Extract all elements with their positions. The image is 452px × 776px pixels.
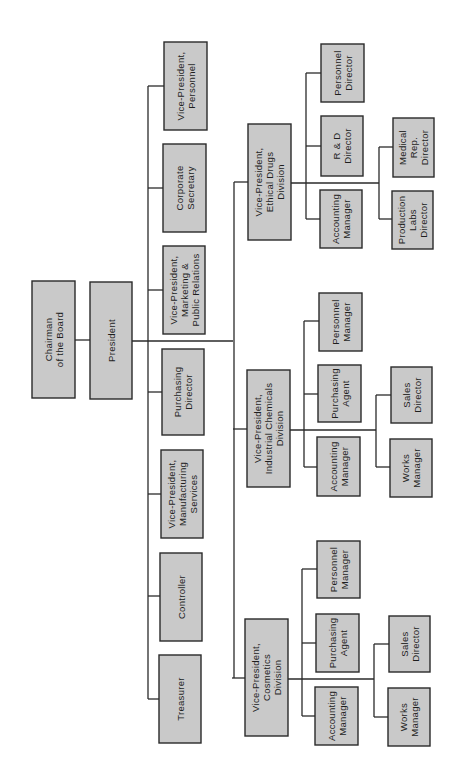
org-box-title-line: Division xyxy=(275,164,286,200)
org-box-vp-cosmetics: Vice-President,CosmeticsDivision xyxy=(245,619,288,736)
org-box-title-line: Controller xyxy=(176,575,187,619)
org-box-title-line: Sales xyxy=(401,382,412,407)
org-box-title-line: Manager xyxy=(339,550,350,590)
org-box-title-line: Cosmetics xyxy=(261,654,272,701)
org-box-title-line: Director xyxy=(410,626,421,662)
org-box-ed-rd-director: R & DDirector xyxy=(321,116,363,176)
org-box-title: AccountingManager xyxy=(328,441,350,491)
org-box-title-line: Director xyxy=(183,374,194,410)
org-box-title-line: Personnel xyxy=(330,299,341,344)
org-box-title-line: Director xyxy=(418,202,429,238)
org-box-title-line: Director xyxy=(342,128,353,164)
org-box-title-line: Purchasing xyxy=(329,368,340,419)
org-box-title: AccountingManager xyxy=(330,194,352,244)
org-box-controller: Controller xyxy=(160,553,202,641)
org-box-title-line: Personnel xyxy=(332,50,343,95)
org-box-title-line: Vice-President, xyxy=(168,256,179,325)
org-box-title-line: Personnel xyxy=(186,63,197,108)
org-box-title-line: Industrial Chemicals xyxy=(263,383,274,475)
org-box-title-line: Vice-President, xyxy=(252,394,263,463)
org-box-ic-purchasing-agent: PurchasingAgent xyxy=(318,365,361,422)
org-box-title: SalesDirector xyxy=(401,377,423,413)
org-box-title-line: Rep. xyxy=(408,137,419,158)
org-boxes: Chairmanof the BoardPresidentVice-Presid… xyxy=(32,42,434,746)
org-box-title: PersonnelDirector xyxy=(332,50,354,95)
org-box-title: PersonnelManager xyxy=(330,299,352,344)
org-box-title: Vice-President,Marketing &Public Relatio… xyxy=(168,254,201,327)
org-box-title-line: Chairman xyxy=(43,318,54,362)
org-box-title-line: Marketing & xyxy=(179,263,190,317)
org-chart: Chairmanof the BoardPresidentVice-Presid… xyxy=(0,0,452,776)
org-box-vp-marketing: Vice-President,Marketing &Public Relatio… xyxy=(163,246,205,334)
org-box-title: President xyxy=(106,319,117,362)
org-box-title-line: Purchasing xyxy=(172,367,183,418)
org-box-title-line: Vice-President, xyxy=(250,643,261,712)
org-box-ic-accounting-manager: AccountingManager xyxy=(317,437,360,496)
org-box-co-works-manager: WorksManager xyxy=(388,688,430,746)
org-box-title: AccountingManager xyxy=(326,691,348,741)
org-box-title-line: Agent xyxy=(340,380,351,406)
org-box-ed-medical-rep-director: MedicalRep.Director xyxy=(393,118,434,177)
org-box-title-line: Division xyxy=(272,660,283,696)
org-box-title: WorksManager xyxy=(400,448,422,488)
org-box-title: CorporateSecretary xyxy=(174,166,196,211)
org-box-title-line: Manager xyxy=(339,447,350,487)
org-box-title-line: Manager xyxy=(337,696,348,736)
org-box-title-line: Accounting xyxy=(328,441,339,491)
org-box-title-line: Agent xyxy=(338,630,349,656)
org-box-treasurer: Treasurer xyxy=(159,655,201,743)
org-box-title-line: Sales xyxy=(399,631,410,656)
org-box-title-line: Manager xyxy=(341,199,352,239)
org-box-title: Chairmanof the Board xyxy=(43,312,65,367)
org-box-title-line: Ethical Drugs xyxy=(264,152,275,212)
org-box-title-line: Treasurer xyxy=(175,677,186,721)
org-box-title-line: Director xyxy=(419,130,430,166)
org-box-ic-sales-director: SalesDirector xyxy=(391,367,432,423)
org-box-co-purchasing-agent: PurchasingAgent xyxy=(316,614,359,672)
org-box-co-sales-director: SalesDirector xyxy=(389,616,430,672)
org-box-ed-personnel-director: PersonnelDirector xyxy=(321,44,364,102)
org-box-title-line: Labs xyxy=(407,209,418,231)
org-box-title: WorksManager xyxy=(398,697,420,737)
org-box-ed-production-labs-director: ProductionLabsDirector xyxy=(392,191,433,249)
org-box-corporate-secretary: CorporateSecretary xyxy=(163,144,206,232)
org-box-title-line: Works xyxy=(398,703,409,731)
org-box-title-line: Vice-President, xyxy=(175,52,186,121)
org-box-title-line: R & D xyxy=(331,133,342,160)
org-box-title-line: Manufacturing xyxy=(177,462,188,526)
org-box-vp-industrial-chemicals: Vice-President,Industrial ChemicalsDivis… xyxy=(247,370,290,487)
org-box-title-line: Medical xyxy=(397,130,408,165)
org-box-president: President xyxy=(90,282,132,399)
org-box-ed-accounting-manager: AccountingManager xyxy=(320,190,362,248)
org-box-title-line: Purchasing xyxy=(327,618,338,669)
org-box-title-line: Public Relations xyxy=(190,254,201,327)
org-box-co-personnel-manager: PersonnelManager xyxy=(317,541,360,598)
org-box-title-line: Accounting xyxy=(330,194,341,244)
org-box-title-line: Corporate xyxy=(174,166,185,211)
org-box-title-line: of the Board xyxy=(54,312,65,367)
org-box-vp-manufacturing: Vice-President,ManufacturingServices xyxy=(161,450,203,538)
org-box-ic-personnel-manager: PersonnelManager xyxy=(319,293,362,351)
org-box-title-line: Vice-President, xyxy=(166,460,177,529)
org-box-title-line: Manager xyxy=(411,448,422,488)
org-box-title-line: Division xyxy=(274,411,285,447)
org-box-vp-ethical-drugs: Vice-President,Ethical DrugsDivision xyxy=(248,124,291,240)
org-box-purchasing-director: PurchasingDirector xyxy=(162,349,204,435)
org-box-title-line: Personnel xyxy=(328,547,339,592)
org-box-title-line: Secretary xyxy=(185,166,196,209)
org-box-title: Treasurer xyxy=(175,677,186,721)
org-box-vp-personnel: Vice-President,Personnel xyxy=(164,42,207,130)
org-box-ic-works-manager: WorksManager xyxy=(390,439,432,497)
org-box-title-line: Director xyxy=(343,55,354,91)
org-box-title: PurchasingDirector xyxy=(172,367,194,418)
org-box-co-accounting-manager: AccountingManager xyxy=(315,687,358,745)
org-box-title: SalesDirector xyxy=(399,626,421,662)
org-box-title-line: Vice-President, xyxy=(253,148,264,217)
org-box-title-line: Director xyxy=(412,377,423,413)
org-box-title-line: Manager xyxy=(409,697,420,737)
org-box-title-line: President xyxy=(106,319,117,362)
org-box-chairman: Chairmanof the Board xyxy=(32,281,75,398)
org-box-title: Controller xyxy=(176,575,187,619)
org-box-title-line: Production xyxy=(396,196,407,244)
org-box-title-line: Accounting xyxy=(326,691,337,741)
